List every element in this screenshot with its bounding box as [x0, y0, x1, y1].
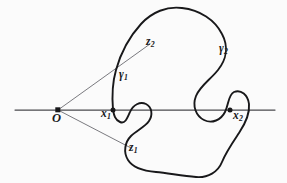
- label-z2-base: z: [146, 35, 150, 47]
- label-z1: z1: [129, 142, 137, 154]
- diagram-canvas: [0, 0, 287, 183]
- label-gamma2-subscript: 2: [224, 47, 228, 56]
- ray-origin-to-z1: [58, 110, 131, 148]
- figure-container: O x1 x2 z1 z2 γ1 γ2: [0, 0, 287, 183]
- label-x2-subscript: 2: [239, 114, 243, 123]
- label-x2: x2: [233, 110, 243, 122]
- label-gamma2: γ2: [219, 43, 228, 55]
- label-z1-subscript: 1: [134, 146, 138, 155]
- label-z2-subscript: 2: [151, 40, 155, 49]
- label-x1-base: x: [101, 107, 107, 119]
- label-x1: x1: [101, 108, 111, 120]
- label-z2: z2: [146, 36, 154, 48]
- label-origin-base: O: [52, 111, 61, 125]
- point-x2-marker: [228, 108, 233, 113]
- label-gamma1-subscript: 1: [124, 73, 128, 82]
- point-x1-marker: [111, 108, 116, 113]
- label-x1-subscript: 1: [107, 112, 111, 121]
- label-x2-base: x: [233, 109, 239, 121]
- label-z1-base: z: [129, 141, 133, 153]
- label-origin: O: [52, 112, 61, 125]
- ray-origin-to-z2: [58, 44, 150, 110]
- label-gamma1: γ1: [119, 69, 128, 81]
